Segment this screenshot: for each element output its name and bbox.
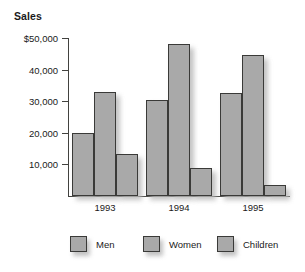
bar	[116, 154, 138, 196]
legend-swatch-square	[217, 236, 234, 252]
legend-item: Women	[143, 233, 202, 255]
x-axis-label: 1993	[94, 202, 115, 213]
x-axis-label: 1994	[168, 202, 189, 213]
legend-swatch-square	[70, 236, 87, 252]
legend-label: Children	[243, 239, 278, 250]
y-axis-tick-label: 40,000	[29, 64, 58, 75]
chart-legend: MenWomenChildren	[0, 233, 305, 263]
bar	[94, 92, 116, 196]
bar	[264, 185, 286, 196]
legend-label: Women	[169, 239, 202, 250]
bar	[220, 93, 242, 196]
sales-bar-chart: Sales 10,00020,00030,00040,000$50,000 19…	[0, 0, 305, 272]
y-axis-tick-label: 20,000	[29, 127, 58, 138]
legend-swatch	[217, 236, 236, 253]
legend-item: Children	[217, 233, 278, 255]
legend-swatch	[70, 236, 89, 253]
bar	[146, 100, 168, 196]
x-axis-label: 1995	[242, 202, 263, 213]
y-axis-tick-label: 10,000	[29, 159, 58, 170]
plot-area	[68, 38, 290, 196]
bar	[242, 55, 264, 196]
y-axis-tick-label: 30,000	[29, 96, 58, 107]
y-axis-labels: 10,00020,00030,00040,000$50,000	[0, 0, 58, 272]
legend-item: Men	[70, 233, 114, 255]
y-axis-tick-label: $50,000	[24, 33, 58, 44]
legend-label: Men	[96, 239, 114, 250]
bar	[72, 133, 94, 196]
legend-swatch-square	[143, 236, 160, 252]
bar	[190, 168, 212, 196]
bar	[168, 44, 190, 196]
legend-swatch	[143, 236, 162, 253]
